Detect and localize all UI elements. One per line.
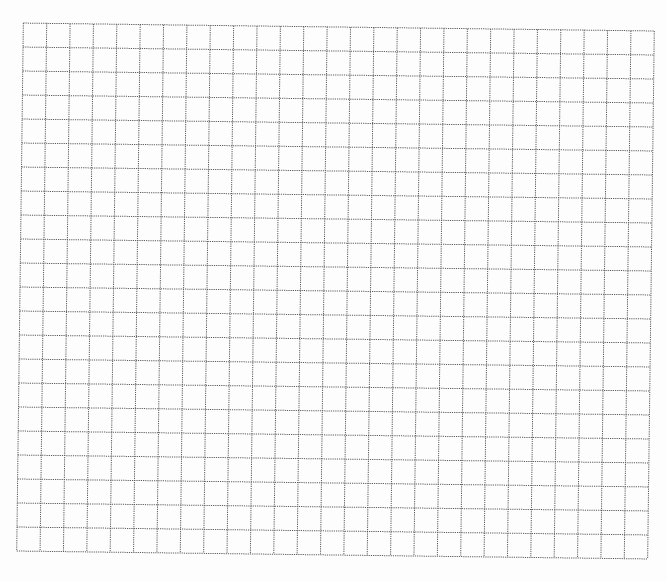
grid-vertical-line xyxy=(250,25,257,553)
grid-horizontal-line xyxy=(20,239,651,247)
grid-horizontal-line xyxy=(17,527,648,535)
grid-horizontal-line xyxy=(22,71,653,79)
grid-horizontal-line xyxy=(18,431,649,439)
grid-horizontal-line xyxy=(18,383,649,391)
grid-horizontal-line xyxy=(20,215,651,223)
grid-horizontal-line xyxy=(16,551,647,559)
grid-vertical-line xyxy=(203,25,210,553)
grid-horizontal-line xyxy=(20,263,651,271)
grid-horizontal-line xyxy=(18,407,649,415)
grid-vertical-line xyxy=(460,28,467,556)
grid-vertical-line xyxy=(320,26,327,554)
grid-vertical-line xyxy=(273,26,280,554)
grid-horizontal-line xyxy=(17,503,648,511)
grid-horizontal-line xyxy=(22,95,653,103)
grid-vertical-line xyxy=(16,23,23,551)
grid-horizontal-line xyxy=(19,311,650,319)
grid-horizontal-line xyxy=(21,167,652,175)
grid-horizontal-line xyxy=(19,359,650,367)
grid-horizontal-line xyxy=(20,287,651,295)
grid-horizontal-line xyxy=(23,23,654,31)
grid-vertical-line xyxy=(437,28,444,556)
grid-vertical-line xyxy=(624,30,631,558)
grid-paper-page xyxy=(0,0,667,582)
grid-vertical-line xyxy=(133,24,140,552)
grid-horizontal-line xyxy=(19,335,650,343)
square-grid xyxy=(16,23,654,559)
grid-horizontal-line xyxy=(17,479,648,487)
grid-vertical-line xyxy=(507,29,514,557)
grid-vertical-line xyxy=(390,27,397,555)
grid-vertical-line xyxy=(86,23,93,551)
grid-horizontal-line xyxy=(22,119,653,127)
grid-vertical-line xyxy=(577,30,584,558)
grid-horizontal-line xyxy=(21,143,652,151)
grid-horizontal-line xyxy=(23,47,654,55)
grid-lines xyxy=(16,23,654,559)
grid-horizontal-line xyxy=(21,191,652,199)
grid-horizontal-line xyxy=(17,455,648,463)
